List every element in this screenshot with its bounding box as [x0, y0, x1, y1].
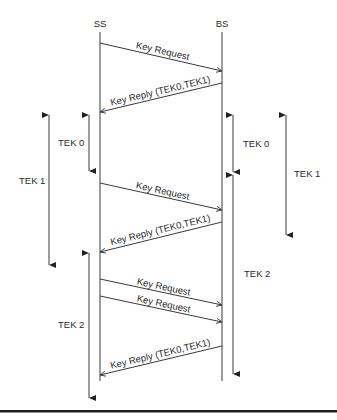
- message-label: Key Reply (TEK0,TEK1): [109, 212, 211, 247]
- ss-tek2-lifetime: TEK 2: [58, 253, 89, 398]
- message-key-reply-1: Key Reply (TEK0,TEK1): [100, 73, 222, 112]
- sequence-diagram: SS BS Key Request Key Reply (TEK0,TEK1) …: [0, 0, 337, 420]
- message-key-reply-2: Key Reply (TEK0,TEK1): [100, 212, 222, 252]
- lifetime-label: TEK 0: [243, 138, 269, 149]
- message-label: Key Request: [135, 179, 191, 202]
- lifetime-label: TEK 1: [19, 175, 45, 186]
- lifetime-label: TEK 2: [244, 268, 270, 279]
- message-label: Key Request: [135, 39, 191, 62]
- message-key-request-4: Key Request: [100, 293, 222, 322]
- lifetime-label: TEK 2: [58, 319, 84, 330]
- entity-label-ss: SS: [94, 18, 107, 29]
- bottom-divider: [0, 410, 337, 413]
- bs-tek0-lifetime: TEK 0: [233, 115, 269, 172]
- lifetime-label: TEK 0: [58, 137, 84, 148]
- ss-tek0-lifetime: TEK 0: [58, 115, 89, 171]
- bs-tek2-lifetime: TEK 2: [233, 175, 270, 374]
- message-key-reply-3: Key Reply (TEK0,TEK1): [100, 336, 222, 375]
- message-key-request-1: Key Request: [100, 39, 222, 71]
- message-label: Key Reply (TEK0,TEK1): [109, 73, 211, 107]
- ss-tek1-lifetime: TEK 1: [19, 115, 49, 265]
- message-key-request-2: Key Request: [100, 179, 222, 210]
- message-label: Key Reply (TEK0,TEK1): [109, 336, 211, 370]
- entity-label-bs: BS: [216, 18, 229, 29]
- bs-tek1-lifetime: TEK 1: [286, 115, 320, 235]
- lifetime-label: TEK 1: [294, 168, 320, 179]
